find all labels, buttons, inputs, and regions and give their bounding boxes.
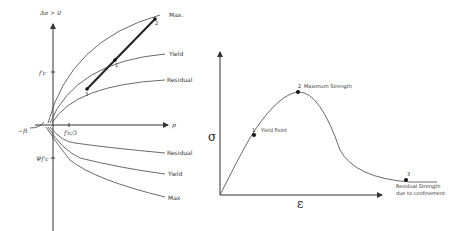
- tick-neg-ft-label: −ft: [18, 127, 28, 135]
- label-residual-lower: Residual: [167, 149, 193, 156]
- label-max-upper: Max.: [169, 11, 183, 18]
- max-strength-num: 2: [298, 83, 301, 89]
- y-axis-label: Δσ > 0: [39, 9, 61, 16]
- x-axis-label: p: [172, 121, 176, 129]
- left-diagram: Δσ > 0 p f'c −ft f'c/3 Ψf'c Max. Yield R…: [18, 9, 193, 231]
- residual-strength-sublabel: due to confinement: [396, 190, 445, 196]
- max-strength-marker: [296, 90, 300, 94]
- residual-strength-num: 3: [407, 171, 410, 177]
- sigma-label: σ: [208, 130, 216, 144]
- right-diagram: σ ε 1 Yield Point 2 Maximum Strength 3 R…: [208, 52, 445, 211]
- tick-psi-label: Ψf'c: [36, 155, 49, 163]
- yield-point-label: Yield Point: [260, 127, 287, 133]
- label-max-lower: Max: [168, 194, 181, 201]
- tick-fc-label: f'c: [38, 69, 47, 77]
- max-strength-label: Maximum Strength: [304, 83, 352, 90]
- yield-point-marker: [252, 133, 256, 137]
- point-2-label: 2: [155, 20, 158, 26]
- curve-max-lower: [46, 127, 165, 197]
- point-1-label: 1: [115, 62, 118, 68]
- label-yield-lower: Yield: [167, 170, 182, 177]
- label-yield-upper: Yield: [168, 50, 183, 57]
- residual-strength-label: Residual Strength: [396, 183, 440, 190]
- loading-path: [87, 19, 155, 89]
- point-3-label: 3: [85, 91, 88, 97]
- tick-fc3-label: f'c/3: [63, 129, 77, 137]
- epsilon-label: ε: [297, 197, 303, 211]
- curve-residual-upper: [52, 80, 165, 123]
- figure: Δσ > 0 p f'c −ft f'c/3 Ψf'c Max. Yield R…: [0, 0, 460, 231]
- residual-strength-marker: [404, 178, 408, 182]
- label-residual-upper: Residual: [167, 76, 193, 83]
- yield-point-num: 1: [252, 127, 255, 133]
